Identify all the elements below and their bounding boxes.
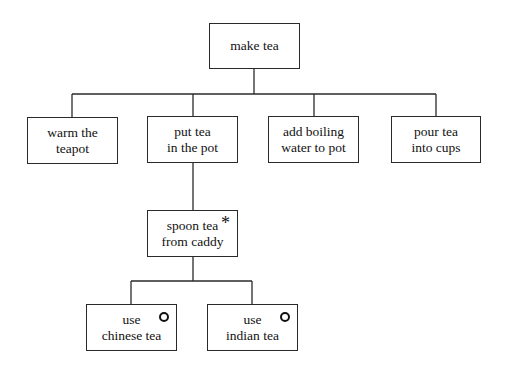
- task-label: add boiling: [283, 124, 344, 140]
- task-pour-tea[interactable]: pour tea into cups: [391, 116, 481, 163]
- task-label: water to pot: [281, 140, 345, 156]
- task-label: put tea: [174, 124, 210, 140]
- task-warm-teapot[interactable]: warm the teapot: [27, 117, 118, 164]
- task-put-tea-in-pot[interactable]: put tea in the pot: [147, 116, 238, 163]
- task-label: pour tea: [414, 124, 458, 140]
- task-label: teapot: [56, 141, 89, 157]
- iteration-asterisk-icon: *: [221, 215, 230, 231]
- task-use-indian-tea[interactable]: use indian tea: [207, 304, 298, 351]
- task-label: warm the: [47, 125, 98, 141]
- task-label: make tea: [230, 38, 278, 54]
- selection-circle-icon: [159, 312, 169, 322]
- task-label: use: [123, 312, 141, 328]
- task-add-boiling-water[interactable]: add boiling water to pot: [268, 116, 359, 163]
- task-label: from caddy: [162, 234, 224, 250]
- task-label: indian tea: [226, 328, 279, 344]
- selection-circle-icon: [280, 312, 290, 322]
- task-label: into cups: [411, 140, 460, 156]
- task-label: use: [244, 312, 262, 328]
- task-label: in the pot: [167, 140, 218, 156]
- task-make-tea[interactable]: make tea: [209, 23, 300, 69]
- task-label: spoon tea: [167, 218, 218, 234]
- task-label: chinese tea: [102, 328, 162, 344]
- task-spoon-tea[interactable]: spoon tea from caddy *: [147, 210, 238, 257]
- task-use-chinese-tea[interactable]: use chinese tea: [86, 304, 177, 351]
